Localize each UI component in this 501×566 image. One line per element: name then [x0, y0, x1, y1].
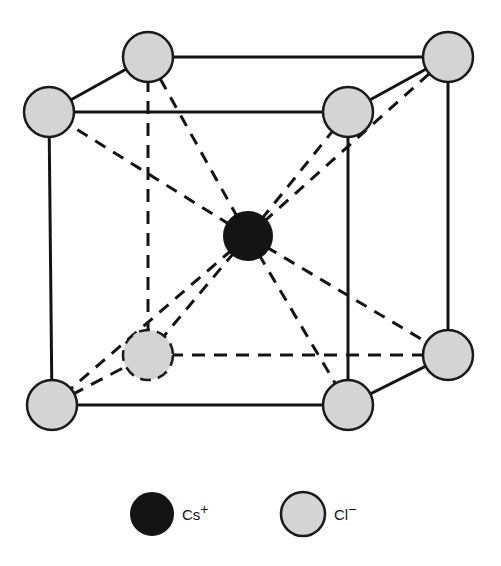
anion-sphere — [423, 330, 473, 380]
anion-sphere — [27, 380, 77, 430]
legend-species-charge: + — [200, 501, 208, 517]
legend-anion-swatch — [281, 492, 325, 536]
legend-species-symbol: Cl — [334, 506, 348, 523]
cesium-ion — [224, 212, 272, 260]
anion-sphere — [24, 87, 74, 137]
figure-background — [0, 0, 501, 566]
legend-species-symbol: Cs — [182, 506, 200, 523]
cscl-structure-figure: Cs+Cl− — [0, 0, 501, 566]
anion-sphere — [123, 32, 173, 82]
legend-cation-swatch — [131, 493, 173, 535]
cation-sphere — [224, 212, 272, 260]
anion-sphere — [423, 32, 473, 82]
crystal-structure-diagram: Cs+Cl− — [0, 0, 501, 566]
legend-species-charge: − — [348, 501, 356, 517]
anion-sphere — [323, 380, 373, 430]
anion-sphere — [123, 330, 173, 380]
anion-sphere — [323, 87, 373, 137]
